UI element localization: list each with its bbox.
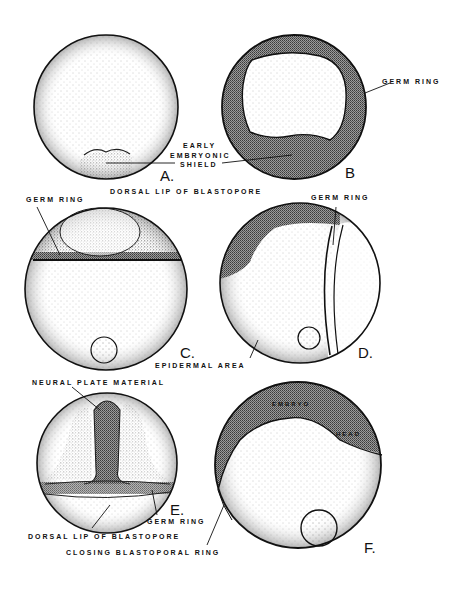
label-germ-ring-d: GERM RING xyxy=(311,194,369,202)
panel-letter-a: A. xyxy=(160,168,174,183)
panel-e-embryo xyxy=(30,387,190,533)
label-germ-ring-c: GERM RING xyxy=(26,196,84,204)
panel-a-embryo xyxy=(34,35,178,180)
panel-letter-c: C. xyxy=(180,345,195,360)
label-germ-ring-b: GERM RING xyxy=(382,78,440,86)
panel-letter-f: F. xyxy=(364,540,376,555)
panel-letter-e: E. xyxy=(170,502,184,517)
embryo-illustration xyxy=(0,0,471,590)
label-shield: SHIELD xyxy=(180,161,218,169)
label-embryonic: EMBRYONIC xyxy=(170,152,231,160)
label-closing-blastoporal-ring: CLOSING BLASTOPORAL RING xyxy=(66,549,220,557)
panel-letter-d: D. xyxy=(358,345,373,360)
label-neural-plate-material: NEURAL PLATE MATERIAL xyxy=(32,379,165,387)
label-head: HEAD xyxy=(336,430,361,438)
label-early: EARLY xyxy=(183,142,216,150)
label-embryo: EMBRYO xyxy=(272,400,310,408)
panel-c-embryo xyxy=(20,200,200,370)
panel-letter-b: B xyxy=(345,165,355,180)
label-germ-ring-e: GERM RING xyxy=(147,518,205,526)
label-dorsal-lip-top: DORSAL LIP OF BLASTOPORE xyxy=(110,188,262,196)
label-epidermal-area: EPIDERMAL AREA xyxy=(155,362,246,370)
label-dorsal-lip-bottom: DORSAL LIP OF BLASTOPORE xyxy=(28,533,180,541)
panel-b-embryo xyxy=(222,35,390,179)
